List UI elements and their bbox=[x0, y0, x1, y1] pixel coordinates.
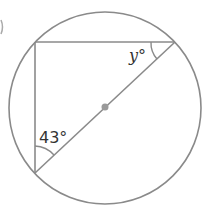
angle-arc-y bbox=[151, 42, 157, 59]
angle-label-y: y° bbox=[129, 46, 146, 65]
variable-y: y bbox=[129, 46, 138, 65]
circle-diagram bbox=[0, 0, 213, 216]
angle-arc-43 bbox=[35, 146, 54, 155]
degree-symbol: ° bbox=[138, 46, 146, 65]
angle-label-43: 43° bbox=[39, 128, 67, 147]
partial-bracket bbox=[1, 20, 3, 34]
center-point bbox=[102, 104, 109, 111]
